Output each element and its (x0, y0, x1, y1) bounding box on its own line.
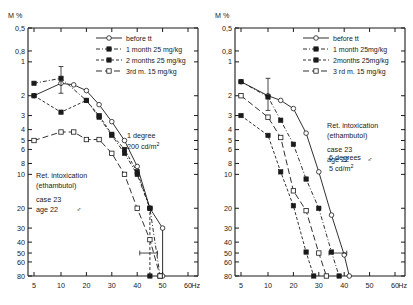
y-tick-label: 0,8 (15, 47, 25, 56)
y-tick-label: 8 (228, 159, 232, 168)
y-tick-label: 50 (17, 249, 25, 258)
x-tick-label: 20 (82, 281, 90, 290)
legend-item[interactable]: before tt (96, 35, 152, 42)
y-tick-label: 1 (228, 57, 232, 66)
y-tick-label: 30 (17, 224, 25, 233)
condition-line-2: 5 cd/m2 (329, 163, 354, 173)
y-axis-unit-label: M % (215, 11, 230, 20)
x-tick-label: 40 (340, 281, 348, 290)
y-tick-label: 2 (21, 91, 25, 100)
y-tick-label: 60 (17, 258, 25, 267)
x-tick-label: 40 (133, 281, 141, 290)
y-tick-label: 8 (21, 159, 25, 168)
condition-line-2: 200 cd/m2 (127, 141, 160, 151)
y-tick-label: 80 (224, 272, 232, 281)
x-tick-label: 5 (32, 281, 36, 290)
legend-item-label: before tt (333, 35, 359, 42)
y-tick-label: 4 (21, 125, 25, 134)
y-tick-label: 20 (224, 204, 232, 213)
x-tick-label: 50 (159, 281, 167, 290)
legend-item[interactable]: 2 months 25 mg/kg (96, 57, 186, 65)
y-tick-label: 30 (224, 224, 232, 233)
x-tick-label: 10 (57, 281, 65, 290)
y-tick-label: 0,8 (222, 47, 232, 56)
caption-line2: (ethambutol) (36, 181, 76, 190)
figure-root: 0,50,81234568102030405060805102030405060… (0, 0, 413, 305)
legend-item[interactable]: 1 month 25 mg/kg (96, 46, 182, 54)
y-tick-label: 1 (21, 57, 25, 66)
legend-item-label: 1 month 25mg/kg (333, 46, 387, 54)
x-tick-label: 30 (315, 281, 323, 290)
y-tick-label: 3 (228, 111, 232, 120)
axes-frame (235, 28, 405, 276)
chart-legend: before tt1 month 25mg/kg2months 25mg/kg3… (303, 35, 389, 76)
data-series (239, 113, 316, 278)
y-tick-label: 40 (224, 238, 232, 247)
x-tick-label: 20 (289, 281, 297, 290)
x-tick-label: 30 (108, 281, 116, 290)
legend-item-label: 1 month 25 mg/kg (126, 46, 182, 54)
caption-line1: Ret. intoxication (327, 121, 378, 130)
y-tick-label: 60 (224, 258, 232, 267)
y-tick-label: 3 (21, 111, 25, 120)
data-series-group (239, 78, 352, 278)
male-sex-icon: ♂ (367, 155, 372, 164)
legend-item-label: 2 months 25 mg/kg (126, 57, 186, 65)
legend-item[interactable]: 2months 25mg/kg (303, 57, 389, 65)
x-tick-label: 50 (366, 281, 374, 290)
case-caption: Ret. intoxication(ethambutol)case 23age … (36, 171, 87, 214)
y-tick-label: 0,5 (222, 24, 232, 33)
y-tick-label: 6 (21, 145, 25, 154)
y-tick-label: 80 (17, 272, 25, 281)
x-axis-unit-label: Hz (398, 281, 407, 290)
caption-line3: case 23 (36, 195, 61, 204)
y-tick-label: 6 (228, 145, 232, 154)
y-tick-label: 5 (21, 136, 25, 145)
legend-item-label: 3rd m. 15 mg/kg (126, 68, 177, 76)
caption-line2: (ethambutol) (327, 131, 367, 140)
y-tick-label: 50 (224, 249, 232, 258)
y-tick-label: 4 (228, 125, 232, 134)
chart-panel-left: 0,50,81234568102030405060805102030405060… (0, 0, 206, 305)
male-sex-icon: ♂ (76, 205, 81, 214)
caption-line3: case 23 (327, 145, 352, 154)
legend-item[interactable]: 1 month 25mg/kg (303, 46, 387, 54)
y-tick-label: 0,5 (15, 24, 25, 33)
data-series (239, 79, 352, 278)
legend-item[interactable]: 3 rd m. 15 mg/kg (303, 68, 386, 76)
legend-item-label: 2months 25mg/kg (333, 57, 389, 65)
error-bar (140, 251, 158, 256)
legend-item[interactable]: 3rd m. 15 mg/kg (96, 68, 177, 76)
y-tick-label: 2 (228, 91, 232, 100)
chart-right-canvas: 0,50,81234568102030405060805102030405060… (207, 0, 413, 305)
y-tick-label: 10 (17, 170, 25, 179)
x-axis-unit-label: Hz (191, 281, 200, 290)
legend-item[interactable]: before tt (303, 35, 359, 42)
condition-annotation: 1 degree200 cd/m2 (127, 131, 160, 151)
legend-item-label: before tt (126, 35, 152, 42)
y-axis-unit-label: M % (8, 11, 23, 20)
y-tick-label: 5 (228, 136, 232, 145)
caption-line4: age 22 (327, 155, 349, 164)
chart-left-canvas: 0,50,81234568102030405060805102030405060… (0, 0, 206, 305)
y-tick-label: 40 (17, 238, 25, 247)
condition-line-1: 1 degree (127, 131, 155, 140)
x-tick-label: 10 (264, 281, 272, 290)
chart-panel-right: 0,50,81234568102030405060805102030405060… (207, 0, 413, 305)
x-tick-label: 5 (239, 281, 243, 290)
legend-item-label: 3 rd m. 15 mg/kg (333, 68, 386, 76)
caption-line1: Ret. intoxication (36, 171, 87, 180)
y-tick-label: 20 (17, 204, 25, 213)
y-tick-label: 10 (224, 170, 232, 179)
chart-legend: before tt1 month 25 mg/kg2 months 25 mg/… (96, 35, 186, 76)
caption-line4: age 22 (36, 205, 58, 214)
